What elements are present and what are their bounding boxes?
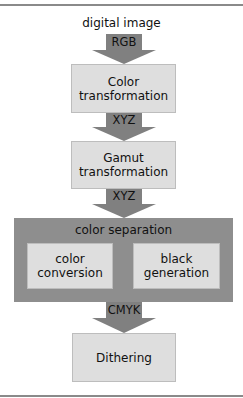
arrow-head-icon [92, 127, 156, 141]
sub-stage-label-line1: color [37, 252, 103, 266]
stage-label-line2: transformation [79, 89, 168, 103]
sub-stage-label-line1: black [144, 252, 209, 266]
arrow-xyz-1: XYZ [92, 113, 156, 141]
color-separation-group: color separation color conversion black … [14, 218, 233, 302]
stage-label-line2: transformation [79, 165, 168, 179]
arrow-label: RGB [106, 34, 142, 50]
stage-label-line1: Gamut [79, 151, 168, 165]
arrow-cmyk: CMYK [92, 302, 156, 333]
separation-title: color separation [14, 222, 233, 238]
arrow-label: CMYK [106, 302, 142, 318]
bottom-rule [0, 395, 243, 397]
arrow-head-icon [92, 50, 156, 64]
stage-label-line1: Color [79, 75, 168, 89]
input-label: digital image [0, 15, 243, 31]
color-transformation-box: Color transformation [71, 64, 176, 113]
color-conversion-box: color conversion [27, 243, 113, 289]
arrow-label: XYZ [106, 189, 142, 204]
top-rule [0, 4, 243, 6]
dithering-box: Dithering [72, 333, 176, 382]
final-stage-label: Dithering [96, 351, 152, 365]
arrow-head-icon [92, 318, 156, 333]
arrow-xyz-2: XYZ [92, 189, 156, 218]
arrow-rgb: RGB [92, 34, 156, 64]
gamut-transformation-box: Gamut transformation [71, 141, 176, 189]
arrow-head-icon [92, 204, 156, 218]
arrow-label: XYZ [106, 113, 142, 127]
black-generation-box: black generation [133, 243, 220, 289]
sub-stage-label-line2: generation [144, 266, 209, 280]
sub-stage-label-line2: conversion [37, 266, 103, 280]
